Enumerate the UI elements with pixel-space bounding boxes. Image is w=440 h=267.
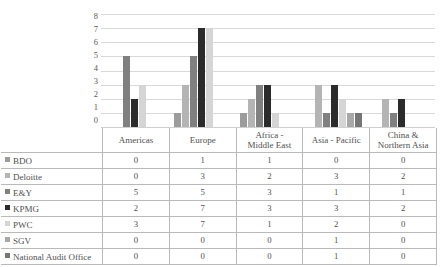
table-column-header: Africa -Middle East <box>236 128 303 153</box>
y-axis-tick: 6 <box>84 38 98 46</box>
legend-label-text: SGV <box>13 235 31 245</box>
legend-label-text: Deloitte <box>13 171 42 181</box>
table-header-row: AmericasEuropeAfrica -Middle EastAsia - … <box>1 128 437 153</box>
table-cell: 1 <box>370 185 437 201</box>
table-cell: 0 <box>370 217 437 233</box>
bar[interactable] <box>190 56 197 127</box>
table-cell: 2 <box>370 169 437 185</box>
y-axis-tick: 8 <box>84 12 98 20</box>
column-header-line: China & <box>370 130 436 140</box>
y-axis-tick: 1 <box>84 103 98 111</box>
table-cell: 1 <box>236 153 303 169</box>
table-cell: 2 <box>236 169 303 185</box>
legend-swatch-icon <box>5 157 10 162</box>
bar[interactable] <box>139 85 146 127</box>
legend-row-label: E&Y <box>1 185 103 201</box>
bar[interactable] <box>347 113 354 127</box>
y-axis-tick: 2 <box>84 90 98 98</box>
chart-container: 876543210 AmericasEuropeAfrica -Middle E… <box>0 0 440 267</box>
table-column-header: Asia - Pacific <box>303 128 370 153</box>
chart-data-table: AmericasEuropeAfrica -Middle EastAsia - … <box>1 128 437 265</box>
bar[interactable] <box>355 113 362 127</box>
bar[interactable] <box>323 113 330 127</box>
y-axis: 876543210 <box>84 12 98 128</box>
column-header-line: Africa - <box>237 130 303 140</box>
table-cell: 3 <box>303 201 370 217</box>
bar[interactable] <box>339 99 346 127</box>
table-cell: 7 <box>169 217 236 233</box>
table-corner-cell <box>1 128 103 153</box>
table-row: National Audit Office00010 <box>1 249 437 265</box>
table-cell: 0 <box>103 233 170 249</box>
column-header-line: Asia - Pacific <box>303 135 369 145</box>
bar-series-area <box>101 14 435 127</box>
table-cell: 3 <box>236 201 303 217</box>
table-cell: 3 <box>169 169 236 185</box>
bar[interactable] <box>206 28 213 127</box>
legend-swatch-icon <box>5 173 10 178</box>
bar[interactable] <box>182 85 189 127</box>
bar-group <box>235 14 302 127</box>
table-cell: 0 <box>169 249 236 265</box>
bar[interactable] <box>382 99 389 127</box>
table-cell: 0 <box>370 233 437 249</box>
bar[interactable] <box>272 113 279 127</box>
bar[interactable] <box>131 99 138 127</box>
table-cell: 0 <box>236 233 303 249</box>
table-row: SGV00010 <box>1 233 437 249</box>
table-cell: 2 <box>303 217 370 233</box>
y-axis-tick: 5 <box>84 51 98 59</box>
table-cell: 0 <box>370 249 437 265</box>
bar[interactable] <box>240 113 247 127</box>
legend-label-text: PWC <box>13 219 33 229</box>
legend-swatch-icon <box>5 253 10 258</box>
legend-swatch-icon <box>5 221 10 226</box>
table-column-header: China &Northern Asia <box>370 128 437 153</box>
y-axis-tick: 4 <box>84 64 98 72</box>
bar[interactable] <box>390 113 397 127</box>
y-axis-tick: 7 <box>84 25 98 33</box>
table-cell: 3 <box>103 217 170 233</box>
legend-swatch-icon <box>5 205 10 210</box>
legend-row-label: KPMG <box>1 201 103 217</box>
table-row: E&Y55311 <box>1 185 437 201</box>
table-row: PWC37120 <box>1 217 437 233</box>
table-cell: 2 <box>103 201 170 217</box>
table-cell: 0 <box>103 169 170 185</box>
bar[interactable] <box>174 113 181 127</box>
column-header-line: Middle East <box>237 140 303 150</box>
legend-label-text: KPMG <box>13 203 39 213</box>
bar[interactable] <box>331 85 338 127</box>
table-cell: 1 <box>236 217 303 233</box>
column-header-line: Americas <box>103 135 169 145</box>
legend-label-text: BDO <box>13 155 32 165</box>
bar-group <box>101 14 168 127</box>
legend-row-label: Deloitte <box>1 169 103 185</box>
plot-area: 876543210 <box>0 0 440 130</box>
table-cell: 5 <box>103 185 170 201</box>
legend-row-label: BDO <box>1 153 103 169</box>
bar[interactable] <box>198 28 205 127</box>
table-cell: 1 <box>303 185 370 201</box>
table-cell: 0 <box>103 153 170 169</box>
column-header-line: Europe <box>170 135 236 145</box>
table-column-header: Europe <box>169 128 236 153</box>
y-axis-tick: 0 <box>84 116 98 124</box>
bar[interactable] <box>264 85 271 127</box>
table-cell: 0 <box>303 153 370 169</box>
table-cell: 0 <box>103 249 170 265</box>
bar[interactable] <box>315 85 322 127</box>
table-cell: 0 <box>236 249 303 265</box>
table-cell: 1 <box>169 153 236 169</box>
bar[interactable] <box>398 99 405 127</box>
table-cell: 3 <box>236 185 303 201</box>
bar-group <box>368 14 435 127</box>
bar[interactable] <box>123 56 130 127</box>
legend-label-text: National Audit Office <box>13 251 91 261</box>
table-cell: 5 <box>169 185 236 201</box>
bar[interactable] <box>256 85 263 127</box>
bar-group <box>168 14 235 127</box>
bar[interactable] <box>248 99 255 127</box>
table-row: Deloitte03232 <box>1 169 437 185</box>
table-row: BDO01100 <box>1 153 437 169</box>
